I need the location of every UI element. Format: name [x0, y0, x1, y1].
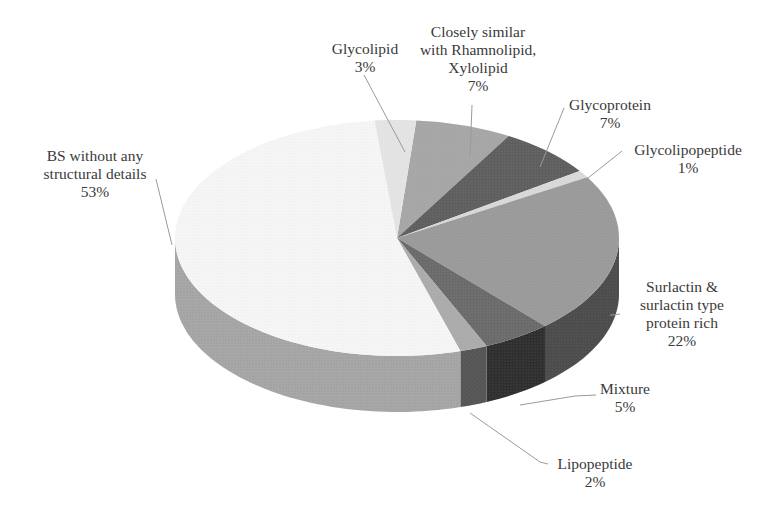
pie-chart-3d: [0, 0, 778, 517]
label-glycolipid: Glycolipid 3%: [320, 40, 410, 76]
pie-tops: [175, 120, 619, 356]
label-bs: BS without any structural details 53%: [25, 147, 165, 201]
pie-side-texture: [460, 346, 486, 407]
label-glycoprotein: Glycoprotein 7%: [555, 96, 665, 132]
leader-mixture: [520, 395, 596, 405]
label-rhamnolipid: Closely similar with Rhamnolipid, Xyloli…: [418, 23, 538, 95]
label-lipopeptide: Lipopeptide 2%: [540, 455, 650, 491]
leader-glycolipopeptide: [583, 151, 622, 182]
label-mixture: Mixture 5%: [590, 380, 660, 416]
label-glycolipopeptide: Glycolipopeptide 1%: [618, 141, 758, 177]
cropped-figure-caption: [0, 506, 778, 517]
leader-lipopeptide: [470, 413, 548, 464]
label-surlactin: Surlactin & surlactin type protein rich …: [617, 278, 747, 350]
